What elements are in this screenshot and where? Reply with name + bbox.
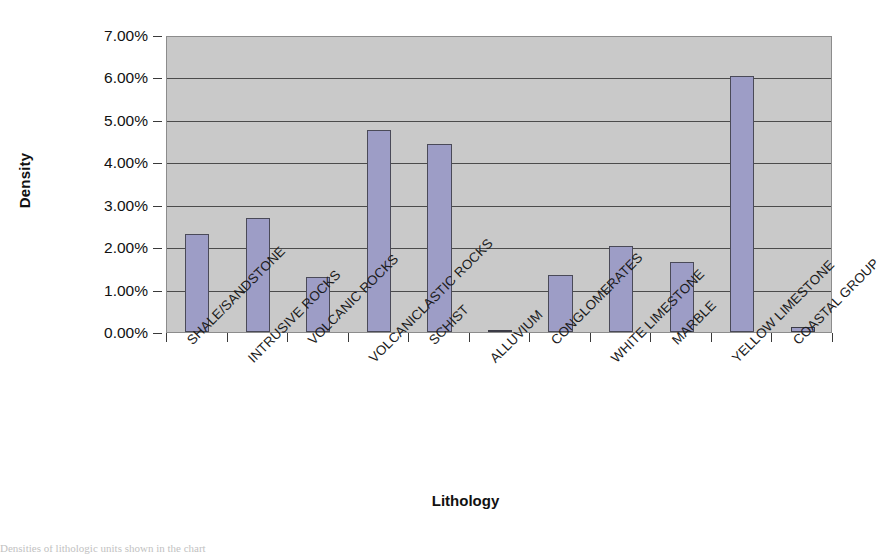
y-axis-tick-label: 3.00% xyxy=(104,197,148,215)
y-axis-tick-label: 5.00% xyxy=(104,112,148,130)
gridline xyxy=(167,36,832,37)
y-axis-tick-label: 1.00% xyxy=(104,282,148,300)
y-axis-tick-label: 7.00% xyxy=(104,27,148,45)
y-axis-tick-mark xyxy=(153,163,162,164)
y-axis-title-label: Density xyxy=(17,152,34,208)
plot-area xyxy=(166,36,832,333)
x-axis-title-label: Lithology xyxy=(432,492,500,509)
y-axis-tick-mark xyxy=(153,36,162,37)
bar xyxy=(730,76,754,332)
x-axis-title: Lithology xyxy=(0,492,859,509)
y-axis-tick-mark xyxy=(153,121,162,122)
y-axis-tick-mark xyxy=(153,78,162,79)
x-axis-category-labels: SHALE/SANDSTONEINTRUSIVE ROCKSVOLCANIC R… xyxy=(0,333,859,493)
figure-caption: Densities of lithologic units shown in t… xyxy=(0,545,859,558)
figure-caption-text: Densities of lithologic units shown in t… xyxy=(0,545,859,554)
y-axis-tick-label: 4.00% xyxy=(104,154,148,172)
y-axis-tick-mark xyxy=(153,291,162,292)
bar xyxy=(367,130,391,332)
y-axis-title: Density xyxy=(8,0,42,360)
y-axis-tick-mark xyxy=(153,206,162,207)
y-axis-tick-label: 2.00% xyxy=(104,239,148,257)
y-axis-tick-label: 6.00% xyxy=(104,69,148,87)
y-axis-tick-mark xyxy=(153,248,162,249)
